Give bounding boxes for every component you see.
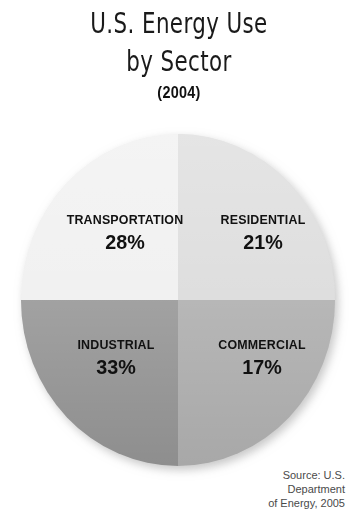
pie-slices-group <box>21 134 335 466</box>
source-note: Source: U.S. Department of Energy, 2005 <box>268 468 345 510</box>
chart-canvas: U.S. Energy Use by Sector (2004) <box>0 0 358 524</box>
pie-slice-commercial[interactable] <box>178 300 335 466</box>
pie-label-commercial-name: COMMERCIAL <box>198 337 327 353</box>
pie-label-transportation: TRANSPORTATION 28% <box>52 212 198 255</box>
chart-subtitle-year: (2004) <box>18 84 340 102</box>
pie-label-commercial: COMMERCIAL 17% <box>192 337 332 380</box>
pie-label-commercial-value: 17% <box>196 354 328 380</box>
source-note-line1: Source: U.S. <box>268 468 345 482</box>
pie-slice-industrial[interactable] <box>21 300 178 466</box>
pie-highlight-overlay <box>21 134 335 466</box>
pie-label-residential-value: 21% <box>202 229 324 255</box>
pie-label-transportation-value: 28% <box>56 229 193 255</box>
pie-label-industrial-name: INDUSTRIAL <box>52 337 181 353</box>
source-note-line3: of Energy, 2005 <box>268 496 345 510</box>
source-note-line2: Department <box>268 482 345 496</box>
pie-label-residential: RESIDENTIAL 21% <box>198 212 328 255</box>
chart-header: U.S. Energy Use by Sector (2004) <box>0 4 358 102</box>
pie-label-industrial: INDUSTRIAL 33% <box>46 337 186 380</box>
chart-title-line1: U.S. Energy Use <box>32 4 326 42</box>
pie-label-residential-name: RESIDENTIAL <box>203 212 323 228</box>
chart-title-line2: by Sector <box>32 42 326 80</box>
pie-label-transportation-name: TRANSPORTATION <box>58 212 192 228</box>
pie-label-industrial-value: 33% <box>50 354 182 380</box>
